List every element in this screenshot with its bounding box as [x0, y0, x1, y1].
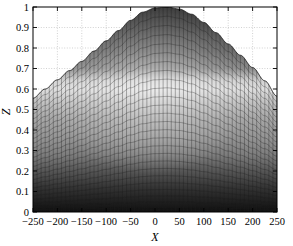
y-tick-label: 1 [24, 2, 29, 13]
x-tick-label: −50 [122, 216, 138, 227]
y-tick-label: 0 [24, 207, 29, 218]
x-tick-label: 200 [245, 216, 261, 227]
y-tick-label: 0.2 [16, 166, 29, 177]
x-tick-label: −100 [95, 216, 117, 227]
x-tick-label: 50 [174, 216, 185, 227]
x-tick-label: 100 [196, 216, 212, 227]
y-axis-title: Z [0, 108, 13, 115]
x-axis-tick-labels: −250−200−150−100−50050100150200250 [22, 216, 285, 227]
x-axis-title: X [150, 230, 159, 244]
y-tick-label: 0.8 [16, 43, 29, 54]
surface-plot: −250−200−150−100−50050100150200250 00.10… [0, 0, 293, 246]
y-tick-label: 0.1 [16, 186, 29, 197]
y-tick-label: 0.9 [16, 22, 29, 33]
figure-canvas: −250−200−150−100−50050100150200250 00.10… [0, 0, 293, 246]
y-tick-label: 0.6 [16, 84, 29, 95]
x-tick-label: −150 [71, 216, 93, 227]
x-tick-label: 250 [269, 216, 285, 227]
y-tick-label: 0.3 [16, 145, 29, 156]
x-tick-label: −200 [47, 216, 69, 227]
x-tick-label: 0 [152, 216, 157, 227]
x-tick-label: −250 [22, 216, 44, 227]
y-tick-label: 0.5 [16, 104, 29, 115]
y-tick-label: 0.4 [16, 125, 30, 136]
x-tick-label: 150 [220, 216, 236, 227]
y-axis-tick-labels: 00.10.20.30.40.50.60.70.80.91 [16, 2, 30, 218]
y-tick-label: 0.7 [16, 63, 29, 74]
